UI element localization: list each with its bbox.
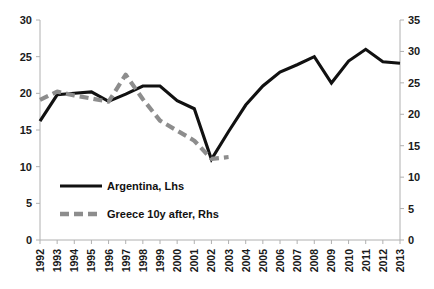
right-axis-tick-label: 0	[408, 234, 414, 246]
right-axis-tick-label: 25	[408, 77, 420, 89]
right-axis-tick-label: 35	[408, 14, 420, 26]
x-axis-tick-label: 2012	[377, 249, 389, 273]
right-axis-tick-label: 5	[408, 203, 414, 215]
x-axis-tick-label: 2005	[257, 249, 269, 273]
x-axis-tick-label: 1993	[51, 249, 63, 273]
legend-label: Greece 10y after, Rhs	[107, 208, 219, 220]
legend-label: Argentina, Lhs	[107, 180, 184, 192]
x-axis: 1992199319941995199619971998199920002001…	[34, 240, 406, 272]
x-axis-tick-label: 1997	[120, 249, 132, 273]
left-axis-tick-label: 30	[20, 14, 32, 26]
series-line-greece	[40, 75, 229, 159]
chart-container: 051015202530 05101520253035 199219931994…	[0, 0, 434, 289]
x-axis-tick-label: 1996	[103, 249, 115, 273]
x-axis-tick-label: 2013	[394, 249, 406, 273]
x-axis-tick-label: 1998	[137, 249, 149, 273]
left-axis: 051015202530	[20, 14, 40, 246]
right-axis-tick-label: 30	[408, 45, 420, 57]
x-axis-tick-label: 2000	[171, 249, 183, 273]
right-axis-tick-label: 20	[408, 108, 420, 120]
right-axis-tick-label: 15	[408, 140, 420, 152]
x-axis-tick-label: 2008	[308, 249, 320, 273]
x-axis-tick-label: 2011	[360, 249, 372, 272]
x-axis-tick-label: 2010	[343, 249, 355, 273]
x-axis-tick-label: 2007	[291, 249, 303, 273]
x-axis-tick-label: 2006	[274, 249, 286, 273]
right-axis-tick-label: 10	[408, 171, 420, 183]
left-axis-tick-label: 20	[20, 87, 32, 99]
x-axis-tick-label: 2001	[188, 249, 200, 273]
x-axis-tick-label: 2009	[325, 249, 337, 273]
series-line-argentina	[40, 49, 400, 159]
x-axis-tick-label: 1999	[154, 249, 166, 273]
right-axis: 05101520253035	[400, 14, 420, 246]
chart-legend: Argentina, LhsGreece 10y after, Rhs	[60, 180, 219, 220]
left-axis-tick-label: 15	[20, 124, 32, 136]
line-chart: 051015202530 05101520253035 199219931994…	[0, 0, 434, 289]
x-axis-tick-label: 2004	[240, 249, 252, 273]
left-axis-tick-label: 0	[26, 234, 32, 246]
series-layer	[40, 49, 400, 159]
x-axis-tick-label: 1995	[85, 249, 97, 273]
x-axis-tick-label: 1992	[34, 249, 46, 273]
x-axis-tick-label: 1994	[68, 249, 80, 273]
left-axis-tick-label: 25	[20, 51, 32, 63]
left-axis-tick-label: 10	[20, 161, 32, 173]
x-axis-tick-label: 2003	[223, 249, 235, 273]
left-axis-tick-label: 5	[26, 197, 32, 209]
x-axis-tick-label: 2002	[205, 249, 217, 273]
